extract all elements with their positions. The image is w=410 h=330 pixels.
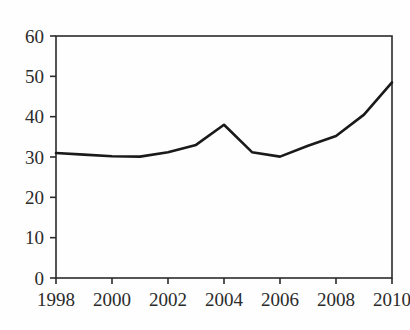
- chart-background: [0, 0, 410, 330]
- chart-canvas: 0102030405060 19982000200220042006200820…: [0, 0, 410, 330]
- y-tick-label: 60: [25, 26, 44, 47]
- x-tick-label: 1998: [37, 289, 75, 310]
- x-tick-label: 2010: [373, 289, 410, 310]
- x-tick-label: 2006: [261, 289, 299, 310]
- x-tick-label: 2000: [93, 289, 131, 310]
- y-tick-label: 0: [35, 268, 45, 289]
- x-tick-label: 2004: [205, 289, 244, 310]
- x-tick-label: 2008: [317, 289, 355, 310]
- x-axis-tick-labels: 1998200020022004200620082010: [37, 289, 410, 310]
- y-tick-label: 50: [25, 66, 44, 87]
- y-tick-label: 10: [25, 227, 44, 248]
- y-tick-label: 40: [25, 106, 44, 127]
- y-tick-label: 30: [25, 147, 44, 168]
- line-chart-figure: 0102030405060 19982000200220042006200820…: [0, 0, 410, 330]
- y-tick-label: 20: [25, 187, 44, 208]
- x-tick-label: 2002: [149, 289, 187, 310]
